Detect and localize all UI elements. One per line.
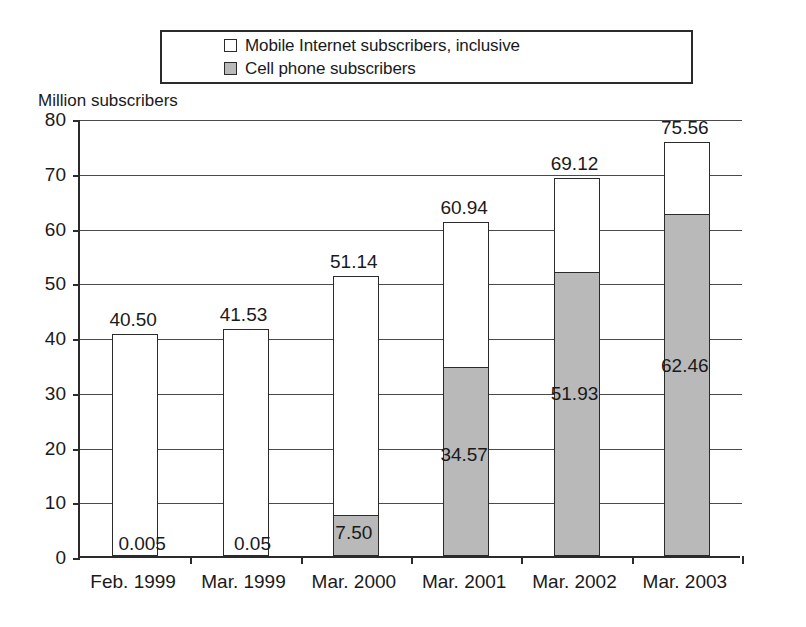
x-axis-tick-mark (411, 556, 413, 564)
bar-total-label: 41.53 (199, 305, 289, 324)
legend-label-mobile-internet: Mobile Internet subscribers, inclusive (245, 37, 520, 54)
bar-total-label: 69.12 (530, 154, 620, 173)
y-axis-tick-mark (73, 230, 80, 232)
y-axis-tick-label: 70 (26, 165, 66, 184)
gridline (80, 339, 742, 340)
bar-segment-label: 51.93 (530, 384, 620, 403)
y-axis-tick-label: 0 (26, 548, 66, 567)
bar-segment-label: 0.05 (208, 534, 298, 553)
x-axis-tick-mark (521, 556, 523, 564)
y-axis-tick-label: 60 (26, 220, 66, 239)
y-axis-tick-mark (73, 449, 80, 451)
legend-item-cell-phone: Cell phone subscribers (224, 60, 416, 77)
chart-container: Mobile Internet subscribers, inclusive C… (0, 0, 806, 627)
legend-swatch-white-icon (224, 39, 237, 52)
bar-total (112, 334, 158, 556)
y-axis-tick-mark (73, 120, 80, 122)
x-axis-category-label: Mar. 2000 (294, 572, 414, 591)
y-axis-tick-label: 80 (26, 110, 66, 129)
bar-segment-label: 34.57 (419, 445, 509, 464)
legend-label-cell-phone: Cell phone subscribers (245, 60, 416, 77)
bar-total-label: 75.56 (640, 118, 730, 137)
bar-total-label: 51.14 (309, 252, 399, 271)
x-axis-category-label: Mar. 2002 (515, 572, 635, 591)
legend-swatch-gray-icon (224, 62, 237, 75)
x-axis-tick-mark (190, 556, 192, 564)
bar-segment-cell-phone (664, 214, 710, 556)
y-axis-tick-mark (73, 394, 80, 396)
gridline (80, 284, 742, 285)
bar-total (223, 329, 269, 556)
gridline (80, 175, 742, 176)
chart-legend: Mobile Internet subscribers, inclusive C… (160, 30, 693, 84)
bar-segment-label: 62.46 (640, 356, 730, 375)
y-axis-tick-mark (73, 503, 80, 505)
x-axis-category-label: Mar. 1999 (184, 572, 304, 591)
x-axis-category-label: Mar. 2003 (625, 572, 745, 591)
bar-total-label: 60.94 (419, 198, 509, 217)
gridline (80, 449, 742, 450)
x-axis-tick-mark (632, 556, 634, 564)
y-axis-tick-mark (73, 339, 80, 341)
y-axis-tick-mark (73, 175, 80, 177)
bar-segment-cell-phone (554, 272, 600, 556)
y-axis-tick-label: 30 (26, 384, 66, 403)
plot-area (78, 120, 740, 558)
y-axis-tick-mark (73, 558, 80, 560)
gridline (80, 230, 742, 231)
y-axis-tick-label: 10 (26, 493, 66, 512)
bar-segment-label: 0.005 (97, 534, 187, 553)
x-axis-tick-mark (742, 556, 744, 564)
gridline (80, 394, 742, 395)
y-axis-tick-label: 20 (26, 439, 66, 458)
gridline (80, 503, 742, 504)
y-axis-tick-mark (73, 284, 80, 286)
bar-segment-label: 7.50 (309, 523, 399, 542)
y-axis-tick-label: 50 (26, 274, 66, 293)
x-axis-tick-mark (301, 556, 303, 564)
y-axis-tick-label: 40 (26, 329, 66, 348)
x-axis-category-label: Mar. 2001 (404, 572, 524, 591)
legend-item-mobile-internet: Mobile Internet subscribers, inclusive (224, 37, 520, 54)
bar-total-label: 40.50 (88, 310, 178, 329)
x-axis-category-label: Feb. 1999 (73, 572, 193, 591)
y-axis-title: Million subscribers (38, 92, 178, 109)
